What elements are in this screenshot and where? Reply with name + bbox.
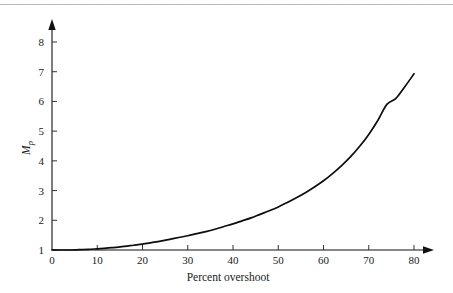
x-tick-label: 10 — [92, 254, 104, 266]
y-tick-label: 4 — [39, 155, 45, 167]
x-tick-label-group: 01020304050607080 — [49, 254, 420, 266]
figure-canvas: 12345678 01020304050607080 Percent overs… — [0, 0, 453, 293]
x-tick-label: 70 — [363, 254, 375, 266]
x-tick-label: 80 — [409, 254, 421, 266]
y-axis-title-subscript: p — [25, 141, 35, 146]
data-curve-mp — [52, 74, 414, 250]
x-tick-label: 30 — [182, 254, 194, 266]
y-tick-label-group: 12345678 — [39, 36, 45, 256]
chart-plot-area: 12345678 01020304050607080 Percent overs… — [0, 0, 453, 293]
y-tick-label: 6 — [39, 95, 45, 107]
x-tick-label: 20 — [137, 254, 149, 266]
svg-text:Mp: Mp — [20, 141, 35, 156]
y-tick-label: 1 — [39, 244, 45, 256]
y-tick-label: 7 — [39, 66, 45, 78]
y-tick-label: 8 — [39, 36, 45, 48]
y-tick-label: 2 — [39, 214, 45, 226]
x-tick-group — [97, 245, 414, 250]
x-axis-title: Percent overshoot — [187, 271, 271, 283]
x-axis-arrowhead — [423, 246, 434, 253]
x-tick-label: 0 — [49, 254, 55, 266]
y-tick-label: 3 — [39, 185, 45, 197]
x-tick-label: 60 — [318, 254, 330, 266]
x-tick-label: 50 — [273, 254, 285, 266]
y-axis-title: Mp — [20, 141, 35, 156]
x-tick-label: 40 — [228, 254, 240, 266]
y-axis-arrowhead — [48, 19, 55, 30]
y-axis: 12345678 — [39, 19, 58, 256]
y-tick-group — [52, 42, 57, 250]
y-tick-label: 5 — [39, 125, 45, 137]
